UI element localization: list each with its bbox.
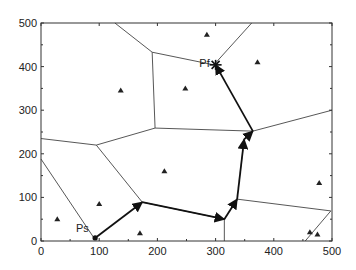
path-segment bbox=[237, 139, 244, 199]
y-tick-label: 500 bbox=[19, 17, 37, 29]
x-tick-label: 100 bbox=[90, 245, 108, 257]
voronoi-edge bbox=[96, 128, 155, 145]
path-segment bbox=[216, 65, 253, 131]
triangle-marker bbox=[316, 180, 322, 185]
path-segment bbox=[142, 202, 224, 219]
end-label: Pf bbox=[199, 57, 210, 69]
x-tick-label: 200 bbox=[148, 245, 166, 257]
voronoi-path-chart: 01002003004005000100200300400500 PsPf bbox=[0, 0, 356, 270]
point-labels: PsPf bbox=[76, 57, 211, 234]
voronoi-edge bbox=[41, 139, 96, 146]
y-tick-label: 400 bbox=[19, 61, 37, 73]
y-tick-label: 0 bbox=[31, 235, 37, 247]
voronoi-edge bbox=[253, 110, 332, 131]
triangle-marker bbox=[255, 59, 261, 64]
x-tick-label: 400 bbox=[265, 245, 283, 257]
voronoi-edges bbox=[41, 23, 332, 241]
voronoi-edge bbox=[115, 23, 152, 52]
triangle-marker bbox=[314, 231, 320, 236]
x-tick-label: 0 bbox=[38, 245, 44, 257]
triangle-marker bbox=[54, 216, 60, 221]
path-segment bbox=[224, 199, 237, 219]
obstacle-markers bbox=[54, 32, 322, 237]
start-label: Ps bbox=[76, 222, 89, 234]
triangle-marker bbox=[161, 168, 167, 173]
axes: 01002003004005000100200300400500 bbox=[19, 17, 342, 257]
end-point-marker bbox=[210, 60, 222, 70]
voronoi-edge bbox=[155, 128, 253, 131]
triangle-marker bbox=[204, 32, 210, 37]
axes-frame bbox=[41, 23, 332, 241]
y-tick-label: 100 bbox=[19, 191, 37, 203]
y-tick-label: 300 bbox=[19, 104, 37, 116]
path-segment bbox=[244, 131, 253, 139]
voronoi-edge bbox=[237, 199, 331, 211]
triangle-marker bbox=[118, 88, 124, 93]
x-tick-label: 500 bbox=[323, 245, 341, 257]
voronoi-edge bbox=[305, 211, 331, 241]
triangle-marker bbox=[182, 85, 188, 90]
start-point-marker bbox=[93, 235, 98, 240]
x-tick-label: 300 bbox=[206, 245, 224, 257]
triangle-marker bbox=[307, 229, 313, 234]
voronoi-edge bbox=[96, 145, 142, 202]
y-tick-label: 200 bbox=[19, 148, 37, 160]
voronoi-edge bbox=[214, 23, 252, 65]
triangle-marker bbox=[137, 230, 143, 235]
path-segment bbox=[95, 202, 142, 238]
voronoi-edge bbox=[152, 52, 155, 128]
triangle-marker bbox=[96, 201, 102, 206]
path-line bbox=[93, 60, 253, 241]
